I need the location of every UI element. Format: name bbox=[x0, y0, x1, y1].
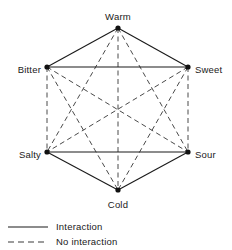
node-labels: WarmBitterSweetSaltySourCold bbox=[18, 11, 223, 210]
edge-warm-sour bbox=[118, 28, 188, 152]
legend-label-no-interaction: No interaction bbox=[56, 236, 117, 247]
no-interaction-edges bbox=[47, 28, 188, 190]
edge-warm-sweet bbox=[118, 28, 188, 67]
node-marker-warm bbox=[115, 25, 120, 30]
node-marker-salty bbox=[44, 149, 49, 154]
node-label-sour: Sour bbox=[195, 149, 216, 160]
edge-warm-salty bbox=[47, 28, 118, 152]
edge-warm-bitter bbox=[47, 28, 118, 67]
node-marker-sour bbox=[185, 149, 190, 154]
node-label-bitter: Bitter bbox=[18, 64, 41, 75]
node-label-warm: Warm bbox=[105, 11, 131, 22]
node-marker-sweet bbox=[185, 64, 190, 69]
node-marker-bitter bbox=[44, 64, 49, 69]
node-label-sweet: Sweet bbox=[195, 64, 223, 75]
node-label-salty: Salty bbox=[19, 149, 41, 160]
legend: InteractionNo interaction bbox=[8, 221, 117, 247]
legend-label-interaction: Interaction bbox=[56, 221, 103, 232]
node-label-cold: Cold bbox=[108, 199, 128, 210]
hexagon-interaction-graph: WarmBitterSweetSaltySourCold Interaction… bbox=[0, 0, 232, 250]
node-marker-cold bbox=[115, 187, 120, 192]
interaction-diagram-figure: WarmBitterSweetSaltySourCold Interaction… bbox=[0, 0, 232, 250]
